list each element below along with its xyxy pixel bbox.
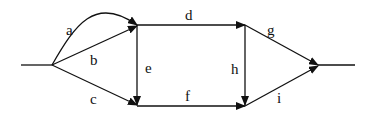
edge-g [245,25,318,65]
label-d: d [185,7,193,23]
label-g: g [267,22,275,38]
label-e: e [145,60,152,76]
label-f: f [185,88,190,104]
label-a: a [66,22,73,38]
label-i: i [277,90,281,106]
edge-i [245,66,318,106]
label-c: c [90,91,97,107]
graph-diagram: a b c d e f g h i [0,0,372,116]
label-b: b [90,52,98,68]
graph-svg: a b c d e f g h i [0,0,372,116]
label-h: h [231,61,239,77]
